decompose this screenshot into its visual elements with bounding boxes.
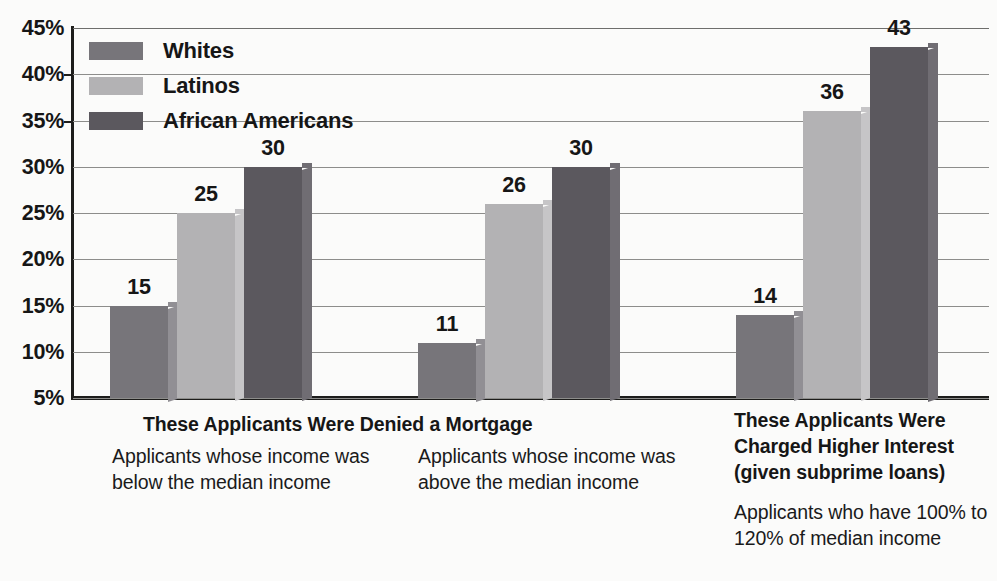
y-axis-tick-label: 40% (22, 62, 64, 87)
legend-item: Latinos (89, 71, 419, 101)
bar-face (110, 306, 168, 399)
legend-label: Whites (163, 38, 234, 64)
y-axis-tick-label: 35% (22, 108, 64, 133)
y-axis-tick-mark (64, 121, 73, 123)
bar-value-label: 43 (870, 16, 928, 41)
legend-item: Whites (89, 36, 419, 66)
bar: 30 (244, 167, 302, 398)
bar: 30 (552, 167, 610, 398)
legend-item: African Americans (89, 106, 419, 136)
chart-page: 45%40%35%30%25%20%15%10%5% 1525301126301… (0, 0, 997, 581)
legend-swatch (89, 77, 143, 95)
bar-face (870, 47, 928, 399)
y-axis-labels: 45%40%35%30%25%20%15%10%5% (0, 28, 64, 398)
bar-face (736, 315, 794, 398)
bar-side-shadow (610, 167, 620, 401)
caption-column-2: Applicants whose income was above the me… (418, 444, 688, 496)
legend-swatch (89, 42, 143, 60)
y-axis-tick-label: 10% (22, 339, 64, 364)
bar: 25 (177, 213, 235, 398)
bar-face (418, 343, 476, 399)
bar: 11 (418, 343, 476, 399)
caption-heading-higher-interest: These Applicants Were Charged Higher Int… (734, 408, 992, 486)
bar-value-label: 15 (110, 275, 168, 300)
bar-face (803, 111, 861, 398)
bar-value-label: 25 (177, 182, 235, 207)
caption-column-3: These Applicants Were Charged Higher Int… (734, 408, 992, 552)
bar: 36 (803, 111, 861, 398)
chart-captions: These Applicants Were Denied a Mortgage … (0, 404, 997, 581)
bar: 15 (110, 306, 168, 399)
gridline (73, 398, 989, 399)
bar-side-shadow (302, 167, 312, 401)
y-axis-tick-label: 25% (22, 201, 64, 226)
bar-side-shadow (928, 46, 938, 401)
bar-value-label: 36 (803, 80, 861, 105)
y-axis-tick-label: 20% (22, 247, 64, 272)
bar-value-label: 14 (736, 284, 794, 309)
bar: 14 (736, 315, 794, 398)
bar: 26 (485, 204, 543, 398)
y-axis-tick-label: 45% (22, 16, 64, 41)
bar-face (552, 167, 610, 398)
legend-swatch (89, 112, 143, 130)
bar-value-label: 26 (485, 173, 543, 198)
y-axis-tick-label: 30% (22, 154, 64, 179)
y-axis-tick-label: 15% (22, 293, 64, 318)
gridline (73, 28, 989, 29)
caption-body-below-median: Applicants whose income was below the me… (112, 444, 382, 496)
caption-column-1: Applicants whose income was below the me… (112, 444, 382, 496)
bar-face (244, 167, 302, 398)
bar-top-shadow (610, 163, 620, 168)
caption-body-above-median: Applicants whose income was above the me… (418, 444, 688, 496)
legend-label: African Americans (163, 108, 353, 134)
legend-label: Latinos (163, 73, 240, 99)
bar-value-label: 30 (552, 136, 610, 161)
bar-face (485, 204, 543, 398)
y-axis-tick-mark (64, 74, 73, 76)
bar-value-label: 11 (418, 312, 476, 337)
chart-legend: WhitesLatinosAfrican Americans (89, 36, 419, 141)
bar-top-shadow (302, 163, 312, 168)
bar: 43 (870, 47, 928, 399)
caption-body-median-range: Applicants who have 100% to 120% of medi… (734, 500, 992, 552)
caption-heading-denied-mortgage: These Applicants Were Denied a Mortgage (143, 413, 532, 436)
bar-face (177, 213, 235, 398)
bar-top-shadow (928, 43, 938, 48)
